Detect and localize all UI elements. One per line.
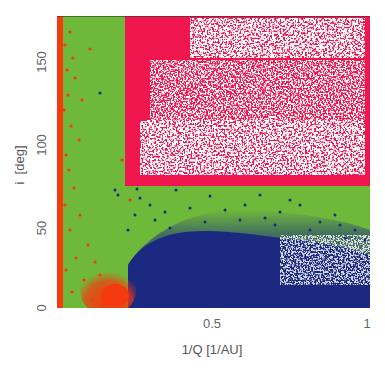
x-axis-label: 1/Q [1/AU] — [182, 342, 243, 357]
y-tick-150: 150 — [34, 51, 49, 73]
y-tick-50: 50 — [34, 221, 49, 235]
x-axis: 0.5 1 1/Q [1/AU] — [182, 316, 371, 357]
y-tick-0: 0 — [34, 304, 49, 311]
x-tick-0.5: 0.5 — [203, 316, 221, 331]
y-axis: 0 50 100 150 i [deg] — [12, 51, 49, 311]
scatter-chart: 0 50 100 150 i [deg] 0.5 1 1/Q [1/AU] — [0, 0, 385, 371]
plot-area — [57, 16, 370, 316]
y-tick-100: 100 — [34, 134, 49, 156]
red-column — [57, 16, 63, 308]
x-tick-1: 1 — [363, 316, 370, 331]
y-axis-label: i [deg] — [12, 145, 27, 184]
